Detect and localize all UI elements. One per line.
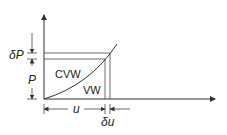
vw-label: VW xyxy=(83,84,101,96)
u-label: u xyxy=(73,102,80,116)
delta-p-label: δP xyxy=(9,48,24,62)
delta-u-label: δu xyxy=(101,115,115,129)
cvw-label: CVW xyxy=(55,68,81,80)
p-label: P xyxy=(28,73,36,87)
work-diagram: δP P CVW VW u δu xyxy=(0,0,227,135)
